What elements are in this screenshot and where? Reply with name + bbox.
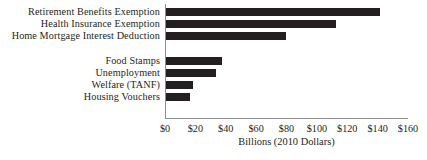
category-label-health-insurance-exemption: Health Insurance Exemption bbox=[0, 19, 160, 29]
bar-retirement-benefits-exemption bbox=[166, 8, 380, 16]
x-tick-label: $0 bbox=[160, 123, 170, 134]
x-tick-label: $160 bbox=[398, 123, 418, 134]
category-label-home-mortgage-interest-deduction: Home Mortgage Interest Deduction bbox=[0, 31, 160, 41]
x-tick-label: $100 bbox=[307, 123, 327, 134]
bar-housing-vouchers bbox=[166, 93, 190, 101]
bar-welfare-tanf bbox=[166, 81, 193, 89]
x-tick-label: $140 bbox=[367, 123, 387, 134]
horizontal-bar-chart: Retirement Benefits Exemption Health Ins… bbox=[0, 0, 427, 160]
bar-home-mortgage-interest-deduction bbox=[166, 32, 286, 40]
category-label-food-stamps: Food Stamps bbox=[0, 56, 160, 66]
x-axis-line bbox=[165, 118, 408, 119]
category-label-retirement-benefits-exemption: Retirement Benefits Exemption bbox=[0, 7, 160, 17]
x-tick-label: $80 bbox=[279, 123, 294, 134]
x-tick-label: $40 bbox=[218, 123, 233, 134]
category-label-housing-vouchers: Housing Vouchers bbox=[0, 92, 160, 102]
category-label-unemployment: Unemployment bbox=[0, 68, 160, 78]
x-axis-tick-labels: $0$20$40$60$80$100$120$140$160 bbox=[165, 123, 408, 137]
x-axis-title: Billions (2010 Dollars) bbox=[165, 136, 408, 148]
bar-food-stamps bbox=[166, 57, 222, 65]
plot-area bbox=[165, 0, 408, 120]
category-label-welfare-tanf: Welfare (TANF) bbox=[0, 80, 160, 90]
bar-unemployment bbox=[166, 69, 216, 77]
x-tick-label: $60 bbox=[248, 123, 263, 134]
x-tick-label: $20 bbox=[188, 123, 203, 134]
x-tick-label: $120 bbox=[337, 123, 357, 134]
bar-health-insurance-exemption bbox=[166, 20, 336, 28]
